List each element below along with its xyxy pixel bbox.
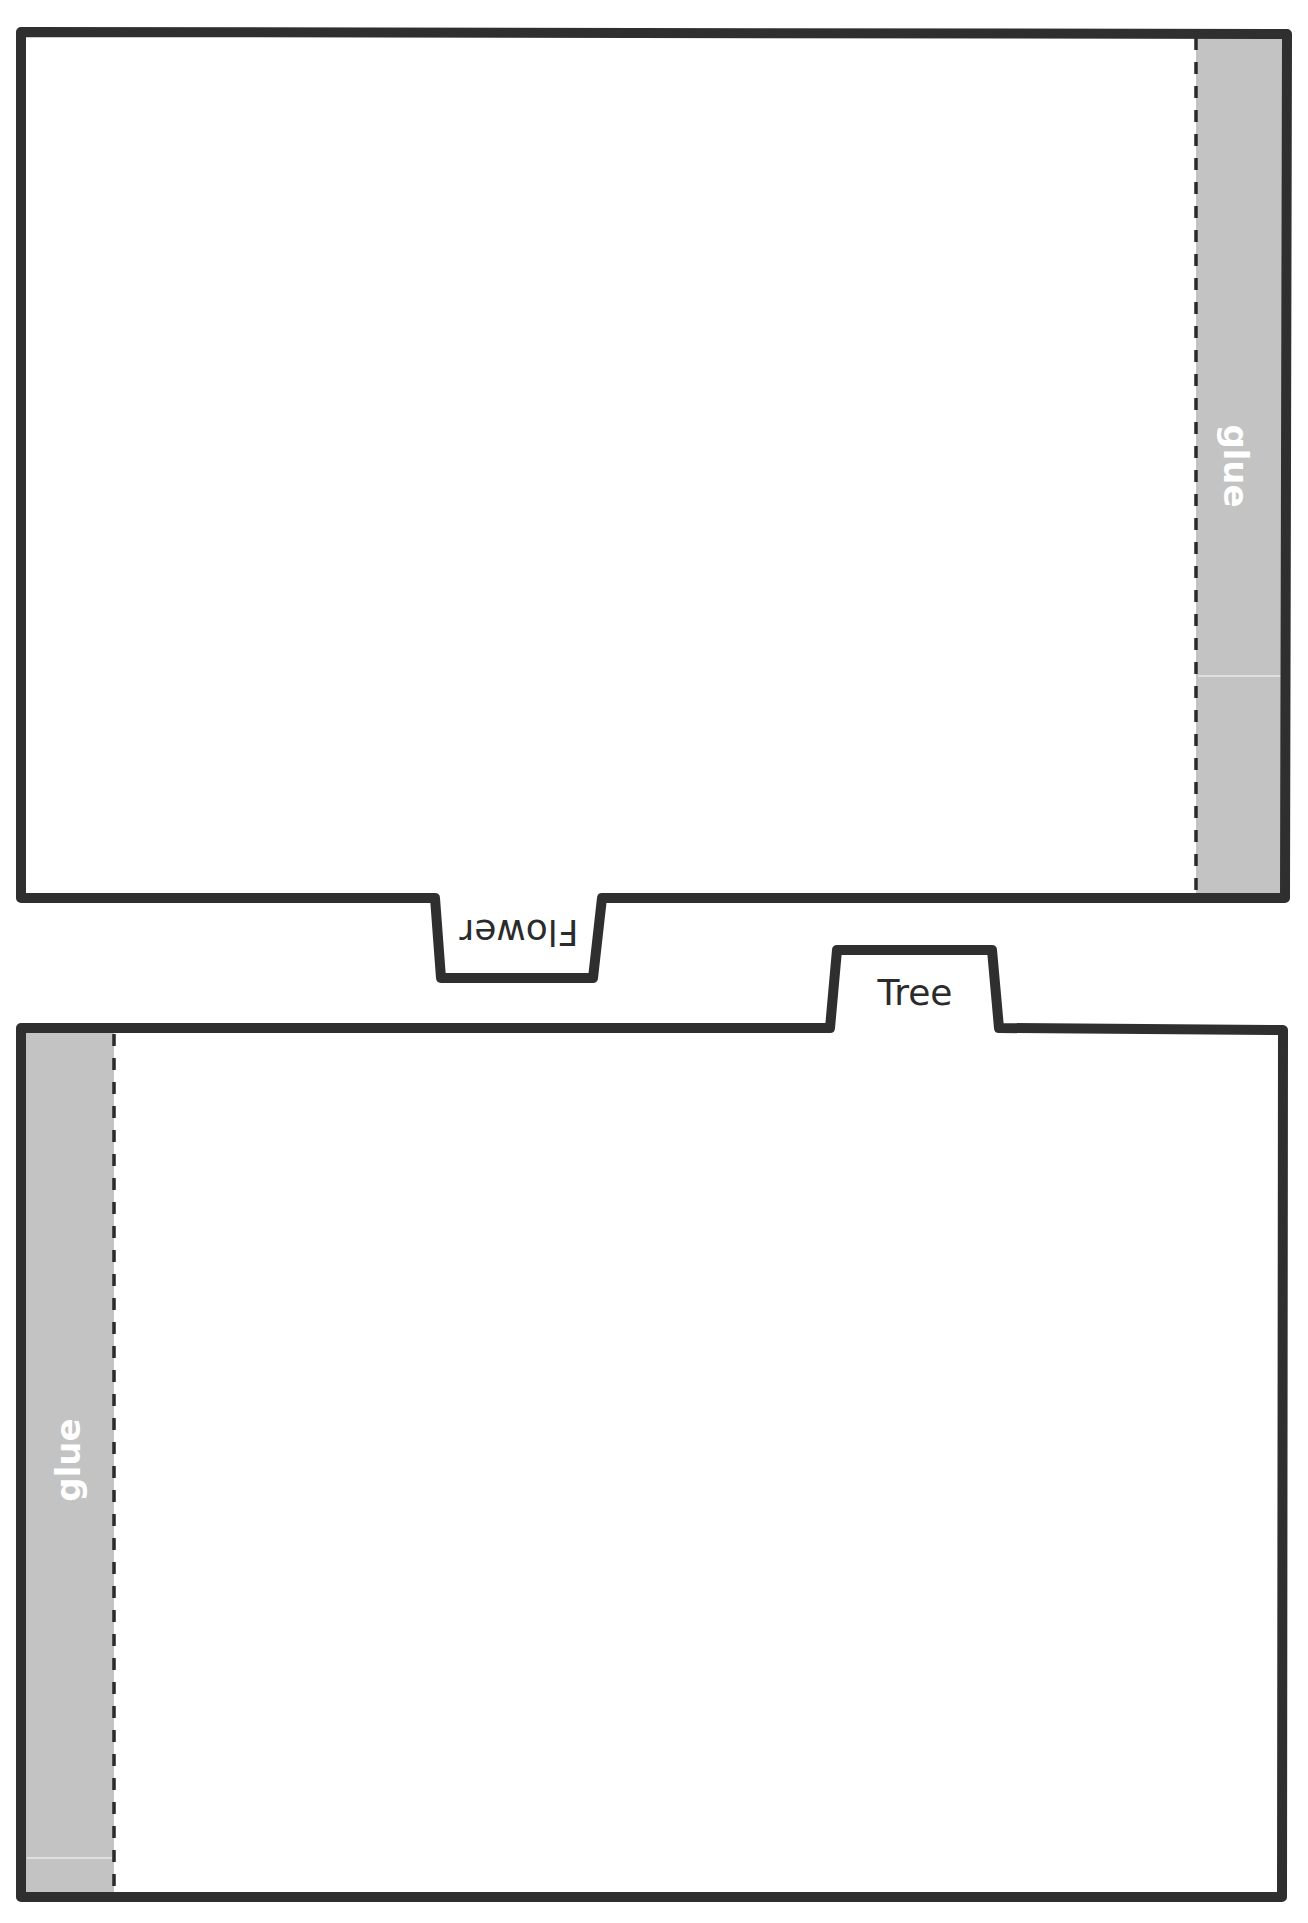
bottom-card-glue-label: glue xyxy=(48,1418,88,1501)
bottom-card-tab[interactable]: Tree xyxy=(876,972,952,1013)
bottom-card: glue Tree xyxy=(21,950,1283,1897)
bottom-card-tab-label: Tree xyxy=(876,972,952,1013)
top-card-tab-label: Flower xyxy=(459,912,578,953)
top-card-glue-label: glue xyxy=(1216,424,1256,507)
top-card: glue Flower xyxy=(21,32,1287,978)
foldable-template-sheet: glue Flower glue Tree xyxy=(0,0,1308,1923)
bottom-card-outline xyxy=(21,950,1283,1897)
top-card-tab[interactable]: Flower xyxy=(459,912,578,953)
top-card-outline xyxy=(21,32,1287,978)
